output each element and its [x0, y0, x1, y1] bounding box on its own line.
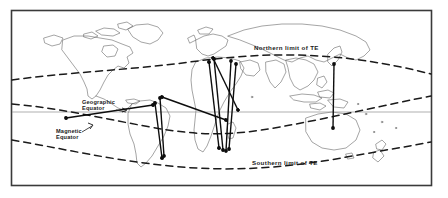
propagation-path-10 [333, 64, 334, 128]
northern-limit-label: Northern limit of TE [254, 44, 319, 51]
southern-limit-label: Southern limit of TE [252, 159, 318, 166]
magnetic-equator-label-line2: Equator [56, 134, 79, 140]
figure-background [0, 0, 448, 198]
geographic-equator-label-line2: Equator [82, 105, 105, 111]
map-canvas: Northern limit of TE Southern limit of T… [0, 0, 448, 198]
te-world-map-figure: Northern limit of TE Southern limit of T… [0, 0, 448, 198]
